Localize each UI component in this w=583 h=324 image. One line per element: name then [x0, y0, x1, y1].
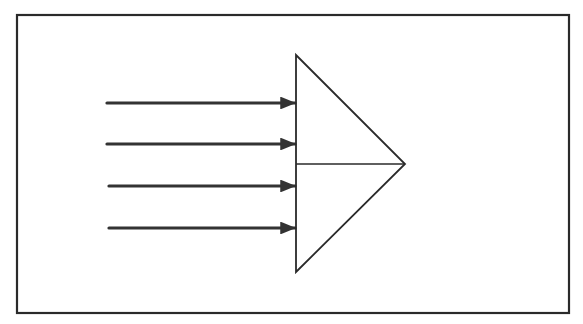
input-arrows: [107, 103, 295, 228]
diagram-frame: [17, 15, 569, 313]
combiner-diagram: [0, 0, 583, 324]
